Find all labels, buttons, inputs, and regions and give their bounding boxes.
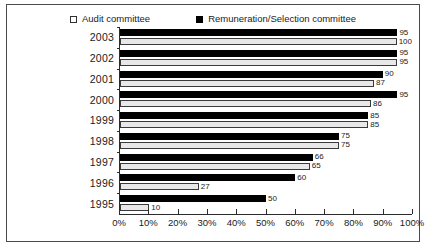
bar-value-label: 75 (341, 132, 350, 140)
bar-value-label: 60 (297, 174, 306, 182)
bar-value-label: 87 (376, 79, 385, 87)
bar-row-bars: 95100 (119, 27, 412, 48)
bar-row: 20009586 (14, 89, 412, 110)
bar-remun (120, 112, 368, 119)
category-label: 1997 (14, 152, 119, 173)
x-axis-tick-label: 10% (139, 217, 158, 228)
legend-entry-audit: Audit committee (70, 14, 150, 24)
bar-remun (120, 154, 313, 161)
bar-audit (120, 80, 374, 87)
x-axis-tick-label: 60% (285, 217, 304, 228)
x-axis-tick (236, 209, 237, 214)
bar-group-audit: 95 (120, 59, 412, 66)
x-axis-tick (383, 209, 384, 214)
bar-group-audit: 85 (120, 121, 412, 128)
x-axis-tick-label: 50% (256, 217, 275, 228)
legend-label-audit: Audit committee (82, 14, 150, 24)
x-axis-tick (295, 209, 296, 214)
bar-row-bars: 6665 (119, 152, 412, 173)
bar-row-bars: 7575 (119, 131, 412, 152)
bar-group-remun: 66 (120, 154, 412, 161)
bar-audit (120, 59, 397, 66)
bar-value-label: 75 (341, 141, 350, 149)
x-axis-ticks (119, 209, 412, 214)
bar-row-bars: 9595 (119, 48, 412, 69)
category-tick (117, 48, 120, 49)
bar-group-remun: 85 (120, 112, 412, 119)
x-axis-tick (412, 209, 413, 214)
chart-container: Audit committee Remuneration/Selection c… (0, 0, 426, 251)
category-label: 2001 (14, 69, 119, 90)
bar-value-label: 100 (399, 38, 412, 46)
category-label: 1995 (14, 193, 119, 214)
category-tick (117, 152, 120, 153)
bar-remun (120, 29, 397, 36)
bar-group-audit: 65 (120, 163, 412, 170)
bar-value-label: 27 (201, 183, 210, 191)
bar-value-label: 95 (399, 91, 408, 99)
bar-group-audit: 100 (120, 38, 412, 45)
x-axis-tick-label: 20% (168, 217, 187, 228)
bar-remun (120, 50, 397, 57)
bar-group-remun: 60 (120, 174, 412, 181)
bar-group-remun: 95 (120, 50, 412, 57)
category-tick (117, 69, 120, 70)
category-tick (117, 89, 120, 90)
x-axis-tick-label: 100% (400, 217, 424, 228)
category-label: 1998 (14, 131, 119, 152)
bar-row: 20019087 (14, 69, 412, 90)
bar-row: 19987575 (14, 131, 412, 152)
category-label: 2002 (14, 48, 119, 69)
bar-group-audit: 87 (120, 80, 412, 87)
legend-entry-remuneration: Remuneration/Selection committee (196, 14, 356, 24)
category-label: 1999 (14, 110, 119, 131)
bar-value-label: 65 (312, 162, 321, 170)
bar-group-remun: 95 (120, 29, 412, 36)
bar-row: 19976665 (14, 152, 412, 173)
bar-row-bars: 6027 (119, 172, 412, 193)
x-axis-tick (119, 209, 120, 214)
chart-legend: Audit committee Remuneration/Selection c… (7, 11, 419, 27)
plot-area: 2003951002002959520019087200095861999858… (14, 27, 412, 235)
category-tick (117, 193, 120, 194)
bar-audit (120, 183, 199, 190)
bar-audit (120, 142, 339, 149)
bar-group-remun: 50 (120, 195, 412, 202)
bar-remun (120, 91, 397, 98)
bar-value-label: 66 (315, 153, 324, 161)
x-axis-tick (148, 209, 149, 214)
bar-remun (120, 174, 295, 181)
x-axis-labels: 0%10%20%30%40%50%60%70%80%90%100% (119, 217, 412, 231)
bar-rows: 2003951002002959520019087200095861999858… (14, 27, 412, 214)
bar-row-bars: 9586 (119, 89, 412, 110)
x-axis-tick (207, 209, 208, 214)
bar-value-label: 95 (399, 49, 408, 57)
bar-remun (120, 71, 383, 78)
bar-group-remun: 90 (120, 71, 412, 78)
bar-row: 19998585 (14, 110, 412, 131)
bar-remun (120, 195, 266, 202)
bar-group-audit: 27 (120, 183, 412, 190)
bar-audit (120, 163, 310, 170)
bar-audit (120, 38, 397, 45)
bar-audit (120, 100, 371, 107)
bar-group-audit: 86 (120, 100, 412, 107)
x-axis-tick (266, 209, 267, 214)
bar-group-remun: 95 (120, 91, 412, 98)
bar-group-remun: 75 (120, 133, 412, 140)
bar-value-label: 85 (370, 121, 379, 129)
x-axis-tick-label: 40% (227, 217, 246, 228)
bar-value-label: 86 (373, 100, 382, 108)
category-label: 2003 (14, 27, 119, 48)
bar-value-label: 50 (268, 195, 277, 203)
x-axis-tick-label: 90% (373, 217, 392, 228)
x-axis-line (119, 214, 412, 215)
category-label: 1996 (14, 172, 119, 193)
x-axis-tick-label: 0% (112, 217, 126, 228)
bar-value-label: 90 (385, 70, 394, 78)
x-axis-tick (178, 209, 179, 214)
bar-value-label: 95 (399, 58, 408, 66)
bar-audit (120, 121, 368, 128)
chart-frame: Audit committee Remuneration/Selection c… (6, 4, 420, 242)
bar-value-label: 85 (370, 112, 379, 120)
